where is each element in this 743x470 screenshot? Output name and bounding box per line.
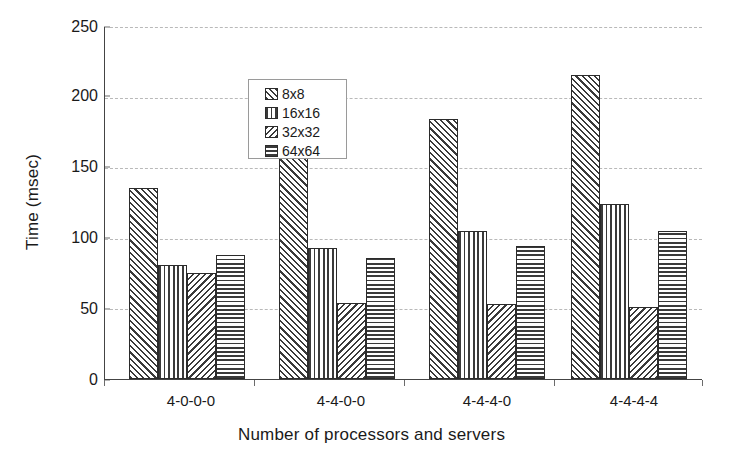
- bar-4-0-0-0-64x64[interactable]: [216, 255, 245, 379]
- legend-item-64x64: 64x64: [265, 142, 346, 160]
- x-tick-mark-1: [254, 380, 255, 386]
- y-tick-label-150: 150: [52, 158, 98, 176]
- x-category-label-3: 4-4-4-4: [610, 392, 658, 409]
- x-tick-mark-3: [554, 380, 555, 386]
- bar-group-4-4-4-4: [571, 27, 687, 379]
- x-category-label-1: 4-4-0-0: [317, 392, 365, 409]
- x-tick-mark-2: [404, 380, 405, 386]
- bar-4-4-4-4-16x16[interactable]: [600, 204, 629, 379]
- y-tick-label-50: 50: [52, 300, 98, 318]
- y-axis-tick-labels: 250 200 150 100 50 0: [36, 0, 98, 470]
- x-category-label-0: 4-0-0-0: [167, 392, 215, 409]
- bar-4-4-4-0-64x64[interactable]: [516, 246, 545, 379]
- y-tick-label-200: 200: [52, 87, 98, 105]
- bar-4-4-0-0-16x16[interactable]: [308, 248, 337, 379]
- bars-layer: [105, 27, 702, 379]
- plot-area: 8x8 16x16 32x32 64x64: [104, 27, 702, 380]
- legend-label-64x64: 64x64: [282, 143, 320, 159]
- bar-4-0-0-0-32x32[interactable]: [187, 273, 216, 379]
- bar-4-4-4-4-64x64[interactable]: [658, 231, 687, 379]
- x-category-label-2: 4-4-4-0: [463, 392, 511, 409]
- y-tick-label-0: 0: [52, 371, 98, 389]
- bar-4-0-0-0-16x16[interactable]: [158, 265, 187, 379]
- horizontal-lines-swatch-icon: [265, 145, 278, 157]
- legend-item-16x16: 16x16: [265, 104, 346, 122]
- bar-4-4-4-0-32x32[interactable]: [487, 304, 516, 379]
- y-tick-label-100: 100: [52, 229, 98, 247]
- backward-diagonal-hatch-swatch-icon: [265, 126, 278, 138]
- y-tick-label-250: 250: [52, 18, 98, 36]
- vertical-lines-swatch-icon: [265, 107, 278, 119]
- bar-group-4-4-4-0: [429, 27, 545, 379]
- legend-item-8x8: 8x8: [265, 85, 346, 103]
- legend-label-16x16: 16x16: [282, 105, 320, 121]
- legend-item-32x32: 32x32: [265, 123, 346, 141]
- x-tick-mark-0: [104, 380, 105, 386]
- forward-diagonal-hatch-swatch-icon: [265, 88, 278, 100]
- x-axis-title: Number of processors and servers: [0, 425, 743, 445]
- bar-chart: Time (msec) 250 200 150 100 50 0: [0, 0, 743, 470]
- bar-4-4-0-0-64x64[interactable]: [366, 258, 395, 379]
- x-tick-mark-4: [702, 380, 703, 386]
- bar-4-4-4-4-8x8[interactable]: [571, 75, 600, 379]
- legend-label-8x8: 8x8: [282, 86, 305, 102]
- bar-4-4-4-0-8x8[interactable]: [429, 119, 458, 379]
- bar-4-4-0-0-8x8[interactable]: [279, 146, 308, 379]
- bar-4-4-0-0-32x32[interactable]: [337, 303, 366, 379]
- bar-4-4-4-4-32x32[interactable]: [629, 307, 658, 379]
- bar-4-0-0-0-8x8[interactable]: [129, 188, 158, 379]
- legend: 8x8 16x16 32x32 64x64: [248, 79, 347, 159]
- legend-label-32x32: 32x32: [282, 124, 320, 140]
- bar-group-4-0-0-0: [129, 27, 245, 379]
- bar-4-4-4-0-16x16[interactable]: [458, 231, 487, 379]
